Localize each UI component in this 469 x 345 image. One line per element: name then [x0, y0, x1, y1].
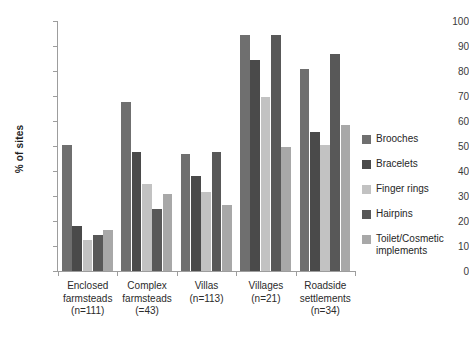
- legend-item[interactable]: Finger rings: [362, 183, 469, 195]
- legend-swatch-icon: [362, 210, 371, 219]
- bar: [152, 209, 162, 272]
- x-axis-tick-mark: [177, 271, 178, 276]
- category-label-line: farmsteads: [54, 293, 121, 306]
- bar-group: [62, 21, 113, 271]
- bar: [250, 60, 260, 271]
- legend-item[interactable]: Brooches: [362, 133, 469, 145]
- y-axis-tick-label: 100: [423, 16, 469, 27]
- legend-label: Finger rings: [376, 183, 429, 195]
- bar: [281, 147, 291, 271]
- category-label-line: Roadside: [292, 280, 359, 293]
- x-axis-tick-mark: [117, 271, 118, 276]
- bar: [103, 230, 113, 271]
- bar-group: [181, 21, 232, 271]
- legend-label: Toilet/Cosmetic implements: [376, 233, 469, 257]
- legend-item[interactable]: Hairpins: [362, 208, 469, 220]
- x-axis-tick-mark: [355, 271, 356, 276]
- bar: [240, 35, 250, 271]
- category-label-line: farmsteads: [113, 293, 180, 306]
- legend-label: Brooches: [376, 133, 418, 145]
- x-axis-tick-mark: [58, 271, 59, 276]
- bar: [72, 226, 82, 271]
- legend-swatch-icon: [362, 160, 371, 169]
- bar: [163, 194, 173, 272]
- x-axis-tick-mark: [236, 271, 237, 276]
- legend-swatch-icon: [362, 135, 371, 144]
- legend-label: Hairpins: [376, 208, 413, 220]
- bar: [121, 102, 131, 271]
- x-axis-line: [57, 271, 356, 272]
- category-label-line: Villas: [173, 280, 240, 293]
- bar: [201, 192, 211, 271]
- bar: [181, 154, 191, 272]
- x-axis-category-label: Enclosedfarmsteads(n=111): [54, 280, 121, 318]
- legend-item[interactable]: Bracelets: [362, 158, 469, 170]
- legend-swatch-icon: [362, 235, 371, 244]
- bar: [62, 145, 72, 271]
- bar-group: [121, 21, 172, 271]
- bar: [142, 184, 152, 272]
- x-axis-category-label: Villas(n=113): [173, 280, 240, 305]
- legend-label: Bracelets: [376, 158, 418, 170]
- bar: [320, 145, 330, 271]
- legend-swatch-icon: [362, 185, 371, 194]
- bar: [212, 152, 222, 271]
- category-label-line: (n=113): [173, 293, 240, 306]
- bar: [341, 125, 351, 271]
- legend-item[interactable]: Toilet/Cosmetic implements: [362, 233, 469, 257]
- bar: [300, 69, 310, 272]
- category-label-line: settlements: [292, 293, 359, 306]
- bar: [261, 97, 271, 271]
- x-axis-category-label: Villages(n=21): [232, 280, 299, 305]
- bar: [271, 35, 281, 271]
- y-axis-tick-label: 70: [423, 91, 469, 102]
- y-axis-title: % of sites: [14, 24, 32, 274]
- bar-group: [240, 21, 291, 271]
- chart-legend: BroochesBraceletsFinger ringsHairpinsToi…: [362, 133, 469, 270]
- bar-group: [300, 21, 351, 271]
- bar: [83, 240, 93, 271]
- x-axis-category-label: Complexfarmsteads(=43): [113, 280, 180, 318]
- category-label-line: Enclosed: [54, 280, 121, 293]
- category-label-line: Villages: [232, 280, 299, 293]
- x-axis-tick-mark: [296, 271, 297, 276]
- bar: [132, 152, 142, 271]
- bar: [310, 132, 320, 271]
- category-label-line: (n=111): [54, 305, 121, 318]
- category-label-line: (n=34): [292, 305, 359, 318]
- bar: [93, 235, 103, 271]
- y-axis-tick-label: 80: [423, 66, 469, 77]
- category-label-line: (=43): [113, 305, 180, 318]
- bar: [222, 205, 232, 271]
- bar: [330, 54, 340, 272]
- category-label-line: Complex: [113, 280, 180, 293]
- plot-area: [58, 21, 355, 271]
- y-axis-tick-label: 60: [423, 116, 469, 127]
- y-axis-tick-label: 90: [423, 41, 469, 52]
- x-axis-category-label: Roadsidesettlements(n=34): [292, 280, 359, 318]
- bar: [191, 176, 201, 271]
- category-label-line: (n=21): [232, 293, 299, 306]
- bar-chart: % of sites 0102030405060708090100 Enclos…: [0, 0, 469, 345]
